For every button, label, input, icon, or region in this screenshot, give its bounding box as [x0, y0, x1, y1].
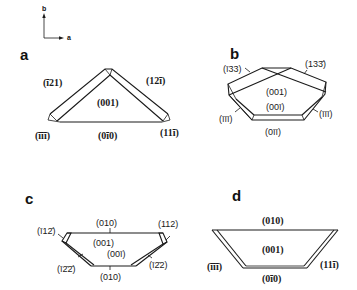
face-label-b-left: (īīī)	[219, 114, 233, 124]
face-label-c-top-right: (112)	[158, 219, 178, 229]
face-label-b-top-right: (133̄)	[305, 59, 326, 69]
crystal-habit-figure: a b a	[0, 0, 357, 290]
face-label-c-bottom-left: (ī2̄2̄)	[57, 264, 76, 274]
panel-b: b (ī33) (133̄) (001) (00ī	[219, 45, 333, 137]
face-label-d-bottom: (0ī0)	[262, 273, 281, 285]
face-label-a-center: (001)	[97, 97, 119, 109]
panel-letter-b: b	[230, 45, 239, 62]
panel-a: a b a	[20, 5, 179, 142]
face-label-d-right: (11ī)	[320, 259, 339, 271]
face-label-a-top-right: (12ī)	[146, 75, 165, 87]
face-label-a-top-left: (ī21)	[43, 77, 62, 89]
face-label-c-bottom: (010)	[100, 272, 121, 282]
b-axis-label: b	[42, 5, 46, 12]
face-label-d-center: (001)	[262, 244, 284, 256]
face-label-b-center-bottom: (00ī)	[266, 102, 285, 112]
a-axis-label: a	[67, 34, 71, 41]
face-label-b-right: (īīī)	[319, 109, 333, 119]
face-label-c-center-bottom: (00ī)	[107, 249, 126, 259]
panel-letter-a: a	[20, 46, 29, 63]
face-label-c-center-top: (001)	[93, 238, 114, 248]
face-label-c-top-left: (ī12̄)	[37, 226, 56, 236]
a-axis-arrow-icon	[59, 36, 64, 39]
panel-letter-d: d	[232, 187, 241, 204]
face-label-a-bottom-left: (īīī)	[35, 130, 50, 142]
face-label-c-bottom-right: (ī2̄2)	[149, 260, 168, 270]
face-label-c-top: (010)	[96, 218, 117, 228]
panel-d: d (010) (001) (īīī) (11ī) (0ī0)	[207, 187, 339, 285]
face-label-b-top-left: (ī33)	[223, 64, 242, 74]
axis-indicator: b a	[42, 5, 71, 41]
face-label-b-center-top: (001)	[266, 87, 287, 97]
panel-letter-c: c	[25, 190, 33, 207]
face-label-d-left: (īīī)	[207, 261, 222, 273]
face-label-a-bottom-right: (11ī)	[160, 127, 179, 139]
panel-c: c (010) (ī12̄) (112) (001	[25, 190, 178, 282]
face-label-b-bottom: (0īī)	[265, 127, 281, 137]
b-axis-arrow-icon	[42, 13, 45, 18]
face-label-d-top: (010)	[262, 215, 284, 227]
face-label-a-bottom: (0ī0)	[98, 130, 117, 142]
